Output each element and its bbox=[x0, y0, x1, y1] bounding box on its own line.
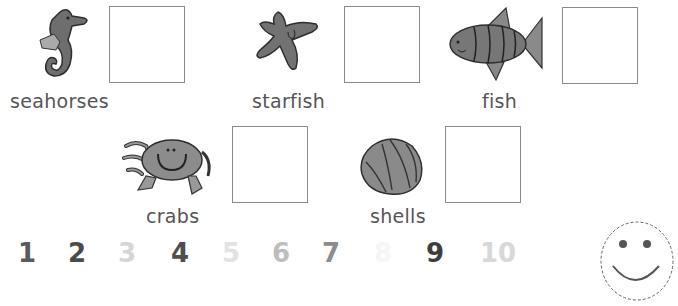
number-7: 7 bbox=[322, 238, 340, 268]
label-starfish: starfish bbox=[252, 90, 325, 112]
crab-icon bbox=[122, 136, 216, 198]
smiley-face-icon bbox=[599, 220, 675, 302]
number-10: 10 bbox=[480, 238, 516, 268]
number-3: 3 bbox=[118, 238, 136, 268]
label-seahorses: seahorses bbox=[10, 90, 109, 112]
count-box-crabs[interactable] bbox=[232, 126, 308, 203]
number-4: 4 bbox=[171, 238, 189, 268]
number-1: 1 bbox=[18, 238, 36, 268]
seahorse-icon bbox=[38, 6, 90, 80]
shell-icon bbox=[360, 136, 424, 196]
count-box-shells[interactable] bbox=[445, 126, 521, 203]
label-shells: shells bbox=[370, 205, 426, 227]
number-8: 8 bbox=[374, 238, 392, 268]
starfish-icon bbox=[254, 10, 324, 74]
count-box-seahorses[interactable] bbox=[109, 6, 185, 83]
number-5: 5 bbox=[222, 238, 240, 268]
number-9: 9 bbox=[426, 238, 444, 268]
number-6: 6 bbox=[272, 238, 290, 268]
number-2: 2 bbox=[68, 238, 86, 268]
fish-icon bbox=[448, 4, 544, 82]
count-box-starfish[interactable] bbox=[344, 6, 420, 83]
label-crabs: crabs bbox=[146, 205, 199, 227]
count-box-fish[interactable] bbox=[562, 7, 638, 84]
label-fish: fish bbox=[482, 90, 517, 112]
